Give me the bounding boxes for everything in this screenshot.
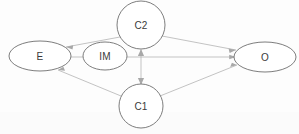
node-im[interactable]: IM xyxy=(83,42,127,70)
edge-c1-to-e xyxy=(58,67,121,96)
node-c2[interactable]: C2 xyxy=(117,1,165,49)
node-o[interactable]: O xyxy=(234,42,296,72)
edge-c2-c1-bidirectional xyxy=(138,49,144,85)
node-c1-label: C1 xyxy=(134,101,147,112)
node-im-label: IM xyxy=(99,51,111,62)
node-e[interactable]: E xyxy=(9,41,71,71)
node-c1[interactable]: C1 xyxy=(119,84,163,128)
node-o-label: O xyxy=(261,52,269,63)
path-diagram: E IM C2 C1 O xyxy=(0,0,299,134)
edge-c1-to-o xyxy=(160,63,237,96)
node-c2-label: C2 xyxy=(134,20,147,31)
diagram-canvas: E IM C2 C1 O xyxy=(0,0,299,134)
node-e-label: E xyxy=(37,51,44,62)
edge-c2-to-o xyxy=(162,36,236,53)
